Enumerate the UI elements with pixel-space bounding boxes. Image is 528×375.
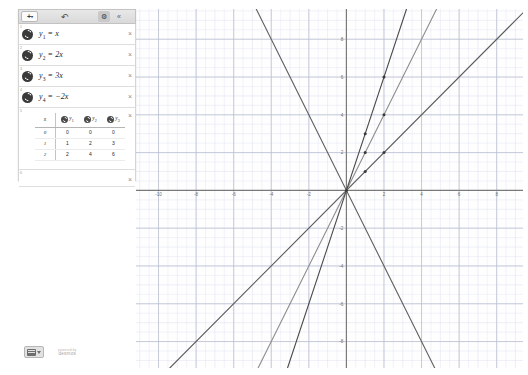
expression-color-swatch[interactable] (22, 29, 33, 40)
expression-text[interactable]: y1 = x (39, 29, 59, 40)
y-tick-label: 8 (341, 37, 344, 42)
table-row[interactable]: 1123 (35, 138, 125, 149)
expression-row[interactable]: 3y3 = 3x× (19, 66, 135, 87)
collapse-panel-button[interactable]: « (114, 11, 124, 22)
data-point[interactable] (382, 76, 385, 79)
chevron-down-icon: ▾ (31, 14, 33, 19)
data-point[interactable] (382, 113, 385, 116)
expression-color-swatch[interactable] (22, 50, 33, 61)
gear-icon: ⚙ (101, 13, 107, 21)
data-table[interactable]: xy1y2y3000011232246 (35, 113, 125, 161)
y-tick-label: 4 (341, 113, 344, 118)
column-color-swatch[interactable] (84, 116, 91, 123)
add-expression-button[interactable]: +▾ (21, 11, 38, 22)
table-column-header[interactable]: y3 (102, 113, 125, 127)
table-cell[interactable]: 2 (35, 149, 56, 160)
expression-text[interactable]: y3 = 3x (39, 71, 63, 82)
y-tick-label: -2 (339, 226, 344, 231)
delete-expression-icon[interactable]: × (128, 51, 132, 58)
x-tick-label: -6 (232, 192, 237, 197)
expression-color-swatch[interactable] (22, 71, 33, 82)
brand-name: desmos (58, 352, 76, 357)
table-cell[interactable]: 0 (56, 127, 80, 138)
column-color-swatch[interactable] (61, 116, 68, 123)
expression-index: 4 (20, 88, 22, 92)
delete-expression-icon[interactable]: × (128, 72, 132, 79)
x-tick-label: -2 (307, 192, 312, 197)
new-expression-row[interactable]: 6× (19, 170, 135, 187)
delete-expression-icon[interactable]: × (128, 93, 132, 100)
undo-button[interactable]: ↶ (58, 11, 72, 22)
table-cell[interactable]: 1 (56, 138, 80, 149)
expression-index: 6 (20, 171, 22, 175)
expression-index: 1 (20, 25, 22, 29)
table-column-header[interactable]: y2 (79, 113, 102, 127)
x-tick-label: 8 (495, 192, 498, 197)
panel-footer: powered by desmos (24, 343, 130, 361)
expression-index: 3 (20, 67, 22, 71)
graph-canvas[interactable]: -10-8-6-4-224688642-2-4-6-8 (136, 9, 523, 368)
expression-list: 1y1 = x×2y2 = 2x×3y3 = 3x×4y4 = −2x×5×xy… (19, 24, 135, 187)
undo-icon: ↶ (61, 12, 69, 22)
table-column-label: y3 (115, 115, 119, 124)
delete-expression-icon[interactable]: × (128, 30, 132, 37)
data-point[interactable] (364, 132, 367, 135)
x-tick-label: -4 (269, 192, 274, 197)
table-header-row: xy1y2y3 (35, 113, 125, 127)
y-tick-label: 6 (341, 75, 344, 80)
graph-svg[interactable]: -10-8-6-4-224688642-2-4-6-8 (136, 9, 523, 368)
table-cell[interactable]: 0 (79, 127, 102, 138)
table-expression-row[interactable]: 5×xy1y2y3000011232246 (19, 108, 135, 170)
x-tick-label: 4 (420, 192, 423, 197)
y-tick-label: -6 (339, 302, 344, 307)
brand-watermark: powered by desmos (58, 348, 76, 357)
expression-row[interactable]: 4y4 = −2x× (19, 87, 135, 108)
table-row[interactable]: 0000 (35, 127, 125, 138)
y-tick-label: -8 (339, 339, 344, 344)
table-cell[interactable]: 0 (102, 127, 125, 138)
x-tick-label: 6 (458, 192, 461, 197)
keypad-icon (27, 349, 36, 356)
table-column-header[interactable]: y1 (56, 113, 80, 127)
delete-expression-icon[interactable]: × (128, 112, 132, 119)
data-point[interactable] (364, 170, 367, 173)
expression-row[interactable]: 2y2 = 2x× (19, 45, 135, 66)
column-color-swatch[interactable] (107, 116, 114, 123)
table-cell[interactable]: 1 (35, 138, 56, 149)
table-column-label: y2 (92, 115, 96, 124)
expression-index: 5 (20, 109, 22, 113)
table-cell[interactable]: 2 (79, 138, 102, 149)
x-tick-label: -8 (194, 192, 199, 197)
data-point[interactable] (345, 189, 348, 192)
table-column-label: x (44, 116, 46, 122)
table-column-header[interactable]: x (35, 113, 56, 127)
table-column-label: y1 (69, 115, 73, 124)
table-cell[interactable]: 6 (102, 149, 125, 160)
expression-color-swatch[interactable] (22, 92, 33, 103)
chevron-up-icon (37, 351, 41, 354)
y-tick-label: -4 (339, 264, 344, 269)
desmos-calculator-app: -10-8-6-4-224688642-2-4-6-8 1y1 = x×2y2 … (0, 0, 528, 375)
table-row[interactable]: 2246 (35, 149, 125, 160)
expression-panel: 1y1 = x×2y2 = 2x×3y3 = 3x×4y4 = −2x×5×xy… (18, 9, 136, 181)
collapse-icon: « (117, 13, 121, 20)
expression-index: 2 (20, 46, 22, 50)
y-tick-label: 2 (341, 150, 344, 155)
expression-text[interactable]: y4 = −2x (39, 92, 68, 103)
x-tick-label: -10 (155, 192, 162, 197)
expression-text[interactable]: y2 = 2x (39, 50, 63, 61)
data-point[interactable] (382, 151, 385, 154)
table-cell[interactable]: 0 (35, 127, 56, 138)
table-cell[interactable]: 4 (79, 149, 102, 160)
keypad-toggle-button[interactable] (24, 346, 44, 358)
data-point[interactable] (364, 151, 367, 154)
expression-row[interactable]: 1y1 = x× (19, 24, 135, 45)
settings-button[interactable]: ⚙ (98, 11, 110, 22)
expression-toolbar: +▾ ↶ ⚙ « (18, 9, 136, 24)
x-tick-label: 2 (383, 192, 386, 197)
delete-expression-icon[interactable]: × (128, 176, 132, 183)
graph-background (136, 9, 523, 368)
table-cell[interactable]: 2 (56, 149, 80, 160)
table-cell[interactable]: 3 (102, 138, 125, 149)
